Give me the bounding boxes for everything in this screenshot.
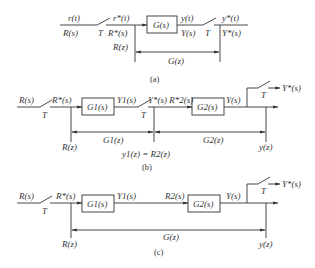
label-r-star-t: r*(t) (113, 13, 130, 23)
label-Rs: R(s) (18, 95, 34, 105)
label-Gz: G(z) (163, 232, 179, 242)
sampler-switch-3 (258, 81, 270, 88)
label-G2z: G2(z) (203, 135, 224, 145)
diagram-b: R(s) T R*(s) G1(s) Y1(s) T Y*(s) R*2(s) … (17, 81, 301, 172)
label-Rz: R(z) (61, 142, 77, 152)
label-block-G2: G2(s) (193, 199, 214, 209)
label-Ys: Y(s) (181, 28, 196, 38)
label-Y1s: Y1(s) (117, 95, 136, 105)
label-Y1s: Y1(s) (117, 191, 136, 201)
diagram-a: r(t) R(s) T r*(t) R*(s) G(s) y(t) Y(s) T… (60, 13, 248, 84)
label-y-star-t: y*(t) (221, 13, 239, 23)
label-rt: r(t) (68, 13, 80, 23)
label-block-G1: G1(s) (87, 102, 108, 112)
label-yz: y(z) (258, 142, 273, 152)
sampler-switch-1 (97, 18, 110, 25)
label-Y-star-s: Y*(s) (222, 28, 241, 38)
label-Rz: R(z) (112, 42, 128, 52)
label-R-star-s: R*(s) (51, 95, 72, 105)
label-T1: T (98, 28, 104, 38)
sampler-switch-2 (203, 18, 216, 25)
sampled-system-diagrams: r(t) R(s) T r*(t) R*(s) G(s) y(t) Y(s) T… (0, 0, 315, 268)
label-Rs: R(s) (62, 28, 78, 38)
label-yz: y(z) (258, 239, 273, 249)
label-T1: T (42, 206, 48, 216)
label-block-G1: G1(s) (87, 199, 108, 209)
label-T3: T (261, 186, 267, 196)
label-Ys: Y(s) (226, 191, 241, 201)
caption-a: (a) (150, 74, 160, 84)
label-Y-star-final: Y*(s) (282, 83, 301, 93)
caption-b: (b) (142, 162, 152, 172)
caption-c: (c) (154, 247, 164, 257)
label-T3: T (261, 90, 267, 100)
label-Rz: R(z) (61, 239, 77, 249)
sampler-switch-1 (40, 100, 52, 107)
label-G1z: G1(z) (103, 135, 124, 145)
label-R-star-s: R*(s) (107, 28, 128, 38)
label-T2: T (141, 110, 147, 120)
label-T2: T (205, 28, 211, 38)
label-Gz: G(z) (168, 56, 184, 66)
label-Rs: R(s) (18, 191, 34, 201)
relation-y1-R2: y1(z) = R2(z) (121, 149, 170, 159)
label-R-star-s: R*(s) (55, 191, 76, 201)
label-Ys: Y(s) (226, 95, 241, 105)
sampler-switch-3 (258, 177, 270, 184)
label-Y-star-R2-star: Y*(s) R*2(s) (148, 95, 193, 105)
label-block-G: G(s) (153, 20, 169, 30)
label-T1: T (42, 110, 48, 120)
label-Y-star-final: Y*(s) (282, 179, 301, 189)
label-block-G2: G2(s) (197, 102, 218, 112)
label-yt: y(t) (180, 13, 194, 23)
sampler-switch-1 (40, 196, 52, 203)
label-R2s: R2(s) (164, 191, 185, 201)
diagram-c: R(s) T R*(s) G1(s) Y1(s) R2(s) G2(s) Y(s… (17, 177, 301, 257)
